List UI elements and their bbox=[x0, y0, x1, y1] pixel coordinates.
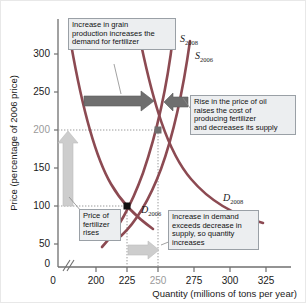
x-tick-label-250: 250 bbox=[150, 275, 167, 286]
x-tick-label-300: 300 bbox=[222, 275, 239, 286]
curve-label-s2008: S2008 bbox=[180, 33, 198, 46]
y-tick-label-100: 100 bbox=[33, 200, 50, 211]
x-ticks-group: 0 200 225 250 275 300 325 bbox=[50, 267, 275, 286]
x-tick-label-0: 0 bbox=[50, 275, 56, 286]
callout-demand-shift: Increase in grain production increases t… bbox=[68, 18, 176, 50]
callout-supply-shift: Rise in the price of oil raises the cost… bbox=[190, 95, 296, 135]
equilibrium-marker-2006 bbox=[124, 203, 131, 210]
supply-demand-figure: 0 50 100 150 200 250 300 0 200 225 250 2… bbox=[0, 0, 306, 303]
x-axis-title: Quantity (millions of tons per year) bbox=[152, 288, 297, 299]
quantity-increase-arrow bbox=[128, 241, 159, 259]
callout-quantity-increase-line4: increases bbox=[172, 239, 255, 248]
y-axis-title: Price (percentage of 2006 price) bbox=[8, 75, 19, 211]
y-tick-label-250: 250 bbox=[33, 86, 50, 97]
leader-line-demand-shift bbox=[114, 64, 121, 94]
x-tick-label-200: 200 bbox=[88, 275, 105, 286]
callout-supply-shift-line4: and decreases its supply bbox=[194, 124, 292, 133]
y-tick-label-50: 50 bbox=[39, 238, 51, 249]
callout-demand-shift-line3: demand for fertilizer bbox=[72, 38, 172, 47]
callout-quantity-increase: Increase in demand exceeds decrease in s… bbox=[168, 210, 259, 250]
curve-label-d2008: D2008 bbox=[222, 192, 243, 205]
curve-s2006 bbox=[121, 41, 190, 236]
curve-d2006 bbox=[71, 44, 153, 229]
y-tick-label-200: 200 bbox=[33, 124, 50, 135]
supply-shift-arrow bbox=[164, 93, 188, 111]
equilibrium-marker-2008 bbox=[155, 127, 162, 134]
x-tick-label-275: 275 bbox=[186, 275, 203, 286]
curve-label-s2006: S2006 bbox=[195, 50, 214, 63]
price-rise-arrow bbox=[58, 131, 78, 206]
y-tick-label-300: 300 bbox=[33, 48, 50, 59]
y-ticks-group: 0 50 100 150 200 250 300 bbox=[33, 48, 58, 269]
axis-break-icon bbox=[63, 260, 74, 271]
curve-label-d2006: D2006 bbox=[140, 204, 162, 217]
y-tick-label-150: 150 bbox=[33, 162, 50, 173]
callout-price-rise-line3: rises bbox=[83, 229, 117, 238]
x-tick-label-325: 325 bbox=[258, 275, 275, 286]
x-tick-label-225: 225 bbox=[119, 275, 136, 286]
y-tick-label-0: 0 bbox=[44, 258, 50, 269]
demand-shift-arrow bbox=[84, 91, 154, 111]
callout-price-rise: Price of fertilizer rises bbox=[79, 209, 121, 241]
